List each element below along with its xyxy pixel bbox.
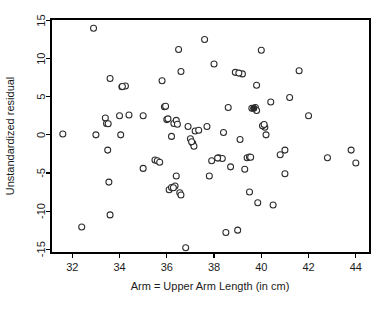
data-point — [60, 131, 66, 137]
y-tick-label: 15 — [35, 14, 47, 26]
tick-marks-group — [46, 21, 356, 258]
data-point — [91, 25, 97, 31]
data-point — [261, 122, 267, 128]
data-point — [79, 224, 85, 230]
data-point — [178, 69, 184, 75]
data-point — [215, 155, 221, 161]
data-point — [242, 166, 248, 172]
data-point — [93, 132, 99, 138]
data-point — [296, 68, 302, 74]
data-point — [268, 99, 274, 105]
data-point — [235, 227, 241, 233]
data-point — [277, 152, 283, 158]
y-tick-label: -10 — [35, 203, 47, 219]
data-point — [173, 173, 179, 179]
data-point — [270, 202, 276, 208]
data-point — [174, 121, 180, 127]
data-point — [353, 160, 359, 166]
x-tick-label: 36 — [161, 261, 173, 273]
data-point — [258, 47, 264, 53]
x-tick-label: 38 — [208, 261, 220, 273]
data-point — [105, 147, 111, 153]
data-point — [348, 147, 354, 153]
data-point — [169, 133, 175, 139]
y-tick-label: 10 — [35, 53, 47, 65]
y-tick-label: -15 — [35, 241, 47, 257]
data-point — [236, 70, 242, 76]
data-point — [221, 130, 227, 136]
x-axis-title: Arm = Upper Arm Length (in cm) — [131, 280, 290, 292]
scatter-plot-figure: 32343638404244151050-5-10-15 Arm = Upper… — [0, 0, 390, 309]
data-point — [202, 37, 208, 43]
tick-labels-group: 32343638404244151050-5-10-15 — [35, 14, 362, 273]
x-tick-label: 42 — [302, 261, 314, 273]
y-tick-label: 0 — [35, 132, 47, 138]
data-point — [282, 171, 288, 177]
y-axis-title: Unstandardized residual — [4, 77, 16, 196]
data-point — [237, 136, 243, 142]
data-point — [248, 154, 254, 160]
data-point — [225, 104, 231, 110]
data-point — [105, 121, 111, 127]
data-point — [254, 82, 260, 88]
data-point — [107, 75, 113, 81]
data-point — [255, 200, 261, 206]
data-point — [163, 103, 169, 109]
data-point — [204, 123, 210, 129]
data-point — [140, 165, 146, 171]
data-point — [196, 127, 202, 133]
data-points-group — [60, 25, 359, 251]
data-point — [263, 132, 269, 138]
data-point — [178, 192, 184, 198]
data-point — [211, 61, 217, 67]
x-tick-label: 40 — [255, 261, 267, 273]
data-point — [287, 95, 293, 101]
plot-canvas: 32343638404244151050-5-10-15 Arm = Upper… — [0, 0, 390, 309]
data-point — [282, 147, 288, 153]
data-point — [119, 83, 125, 89]
data-point — [206, 173, 212, 179]
data-point — [118, 132, 124, 138]
data-point — [183, 245, 189, 251]
data-point — [209, 158, 215, 164]
data-point — [176, 46, 182, 52]
data-point — [140, 113, 146, 119]
data-point — [228, 164, 234, 170]
data-point — [117, 113, 123, 119]
data-point — [306, 113, 312, 119]
data-point — [107, 212, 113, 218]
x-tick-label: 34 — [113, 261, 125, 273]
x-tick-label: 44 — [350, 261, 362, 273]
data-point — [246, 189, 252, 195]
x-tick-label: 32 — [66, 261, 78, 273]
data-point — [324, 155, 330, 161]
data-point — [185, 123, 191, 129]
data-point — [251, 105, 257, 111]
data-point — [170, 185, 176, 191]
data-point — [157, 159, 163, 165]
data-point — [159, 78, 165, 84]
y-tick-label: -5 — [35, 168, 47, 178]
data-point — [106, 179, 112, 185]
data-point — [223, 229, 229, 235]
data-point — [126, 112, 132, 118]
y-tick-label: 5 — [35, 94, 47, 100]
data-point — [189, 139, 195, 145]
data-point — [165, 116, 171, 122]
